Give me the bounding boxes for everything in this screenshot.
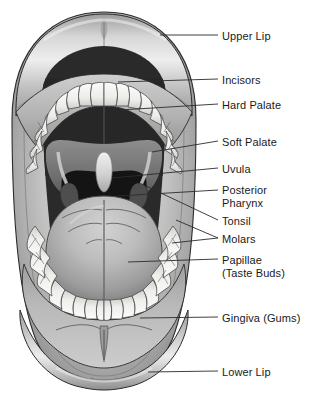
label-papillae-line1: Papillae — [222, 254, 285, 267]
label-molars: Molars — [222, 233, 256, 246]
label-tonsil: Tonsil — [222, 215, 251, 228]
label-hard-palate: Hard Palate — [222, 99, 281, 112]
label-upper-lip: Upper Lip — [222, 30, 271, 43]
tooth-incisor-ur2 — [116, 83, 130, 106]
tooth-incisor-ul1 — [91, 82, 105, 106]
tooth-incisor-ul2 — [79, 83, 93, 106]
label-posterior-pharynx: PosteriorPharynx — [222, 184, 267, 210]
tooth-incisor-lr2 — [110, 299, 123, 319]
label-lower-lip: Lower Lip — [222, 366, 271, 379]
oral-cavity-illustration — [0, 0, 321, 396]
label-incisors-line1: Incisors — [222, 74, 261, 87]
label-gingiva-line1: Gingiva (Gums) — [222, 312, 300, 325]
label-soft-palate: Soft Palate — [222, 136, 277, 149]
label-uvula: Uvula — [222, 163, 251, 176]
label-hard-palate-line1: Hard Palate — [222, 99, 281, 112]
label-uvula-line1: Uvula — [222, 163, 251, 176]
tooth-canine-lr — [121, 296, 135, 318]
label-posterior-pharynx-line1: Posterior — [222, 184, 267, 197]
label-papillae: Papillae(Taste Buds) — [222, 254, 285, 280]
diagram-page: Upper LipIncisorsHard PalateSoft PalateU… — [0, 0, 321, 396]
tooth-incisor-ur1 — [104, 82, 118, 106]
tooth-incisor-ll2 — [85, 299, 98, 319]
label-gingiva: Gingiva (Gums) — [222, 312, 300, 325]
tooth-canine-ll — [73, 296, 87, 318]
label-posterior-pharynx-line2: Pharynx — [222, 197, 267, 210]
label-lower-lip-line1: Lower Lip — [222, 366, 271, 379]
label-soft-palate-line1: Soft Palate — [222, 136, 277, 149]
label-molars-line1: Molars — [222, 233, 256, 246]
label-papillae-line2: (Taste Buds) — [222, 267, 285, 280]
label-upper-lip-line1: Upper Lip — [222, 30, 271, 43]
label-incisors: Incisors — [222, 74, 261, 87]
label-tonsil-line1: Tonsil — [222, 215, 251, 228]
uvula — [96, 152, 112, 192]
